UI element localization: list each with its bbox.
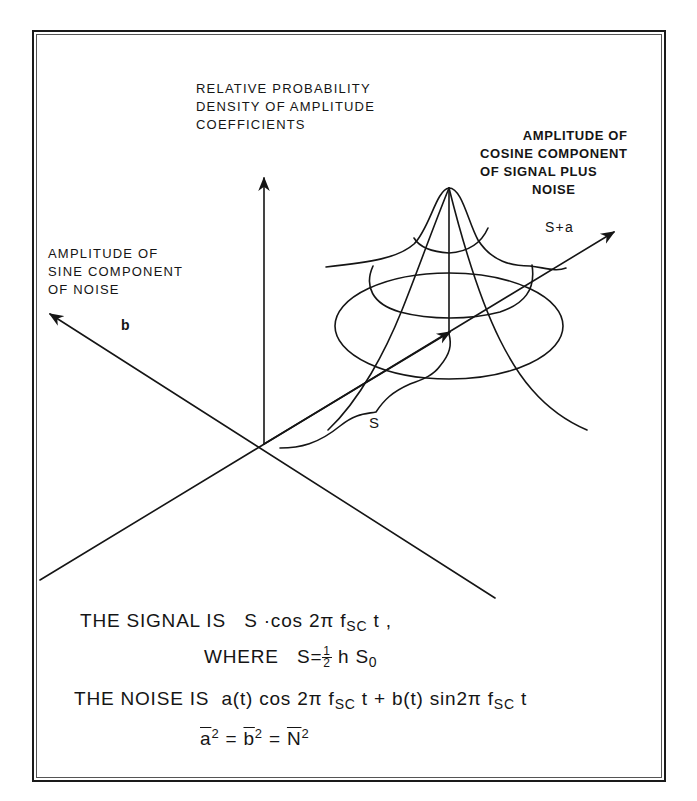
eq-sub: SC (346, 618, 367, 634)
where-equation: WHERE S=12 h S0 (204, 646, 377, 670)
label-line: NOISE (480, 181, 628, 199)
s-plus-a-label: S+a (545, 218, 574, 236)
sine-axis-b (50, 314, 495, 598)
n-bar: N (287, 728, 302, 749)
label-line: AMPLITUDE OF (480, 127, 628, 145)
equals: = (263, 728, 287, 749)
label-line: COEFFICIENTS (196, 116, 375, 134)
eq-text: t + b(t) sin2π f (356, 688, 494, 709)
label-line: AMPLITUDE OF (48, 245, 183, 263)
equals: = (219, 728, 243, 749)
eq-text: t , (367, 610, 391, 631)
b-bar: b (243, 728, 254, 749)
label-line: COSINE COMPONENT (480, 145, 628, 163)
vertical-axis-label: RELATIVE PROBABILITY DENSITY OF AMPLITUD… (196, 80, 375, 134)
exp: 2 (255, 726, 263, 741)
noise-equation: THE NOISE IS a(t) cos 2π fSC t + b(t) si… (74, 688, 527, 712)
label-line: RELATIVE PROBABILITY (196, 80, 375, 98)
eq-text: THE SIGNAL IS (80, 610, 226, 631)
label-line: OF SIGNAL PLUS (480, 163, 628, 181)
fraction: 12 (322, 646, 331, 669)
eq-text: a(t) cos 2π f (221, 688, 334, 709)
eq-sub: SC (335, 696, 356, 712)
label-line: DENSITY OF AMPLITUDE (196, 98, 375, 116)
s-label: S (369, 414, 380, 432)
eq-text: S= (297, 646, 322, 667)
eq-text: THE NOISE IS (74, 688, 209, 709)
variance-equation: a2 = b2 = N2 (200, 726, 310, 750)
label-line: OF NOISE (48, 281, 183, 299)
cosine-axis-label: AMPLITUDE OF COSINE COMPONENT OF SIGNAL … (480, 127, 628, 199)
eq-sub: SC (494, 696, 515, 712)
eq-text: S ·cos 2π f (244, 610, 346, 631)
eq-text: WHERE (204, 646, 279, 667)
signal-vector (264, 332, 450, 444)
a-bar: a (200, 728, 211, 749)
b-label: b (121, 316, 131, 334)
exp: 2 (301, 726, 309, 741)
s-brace (280, 334, 450, 448)
label-line: SINE COMPONENT (48, 263, 183, 281)
eq-text: h S (338, 646, 369, 667)
eq-text: t (515, 688, 527, 709)
sine-axis-label: AMPLITUDE OF SINE COMPONENT OF NOISE (48, 245, 183, 299)
eq-sub: 0 (369, 654, 378, 670)
signal-equation: THE SIGNAL IS S ·cos 2π fSC t , (80, 610, 392, 634)
frac-den: 2 (322, 658, 331, 669)
